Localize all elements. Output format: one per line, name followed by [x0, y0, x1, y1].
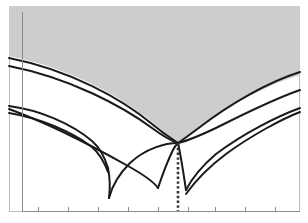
plot-canvas: [0, 0, 308, 223]
figure-container: [0, 0, 308, 223]
